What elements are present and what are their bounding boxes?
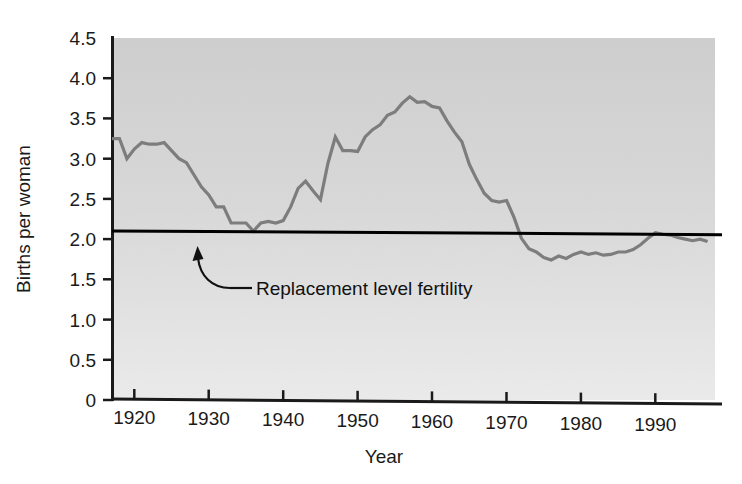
y-tick-label-4: 2.0 <box>70 229 96 250</box>
chart-svg: 0 0.5 1.0 1.5 2.0 2.5 3.0 3.5 4.0 4.5 19… <box>0 0 742 484</box>
y-tick-label-2: 1.0 <box>70 310 96 331</box>
x-tick-label-1990: 1990 <box>634 414 676 435</box>
y-axis-tick-labels: 0 0.5 1.0 1.5 2.0 2.5 3.0 3.5 4.0 4.5 <box>70 28 96 411</box>
x-axis-tick-labels: 1920 1930 1940 1950 1960 1970 1980 1990 <box>113 407 676 435</box>
y-tick-label-6: 3.0 <box>70 149 96 170</box>
x-tick-label-1970: 1970 <box>485 412 527 433</box>
y-tick-label-0: 0 <box>85 390 96 411</box>
annotation-label-replacement-level-fertility: Replacement level fertility <box>256 278 473 299</box>
x-tick-label-1960: 1960 <box>411 411 453 432</box>
fertility-chart-figure: 0 0.5 1.0 1.5 2.0 2.5 3.0 3.5 4.0 4.5 19… <box>0 0 742 484</box>
x-tick-label-1950: 1950 <box>336 410 378 431</box>
x-axis-title: Year <box>365 446 404 467</box>
y-tick-label-8: 4.0 <box>70 68 96 89</box>
y-tick-label-5: 2.5 <box>70 189 96 210</box>
y-tick-label-7: 3.5 <box>70 108 96 129</box>
x-tick-label-1940: 1940 <box>262 409 304 430</box>
y-tick-label-3: 1.5 <box>70 269 96 290</box>
y-tick-label-9: 4.5 <box>70 28 96 49</box>
x-tick-label-1930: 1930 <box>188 408 230 429</box>
x-tick-label-1980: 1980 <box>560 413 602 434</box>
x-tick-label-1920: 1920 <box>113 407 155 428</box>
y-tick-label-1: 0.5 <box>70 350 96 371</box>
plot-area-grain <box>112 38 715 400</box>
y-axis-title: Births per woman <box>13 145 34 293</box>
